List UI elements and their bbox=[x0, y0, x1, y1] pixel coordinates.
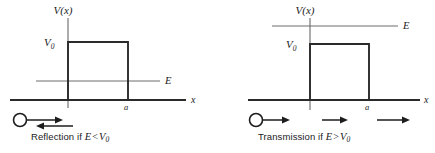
left-energy-label: E bbox=[164, 75, 172, 86]
left-caption-operator: < bbox=[91, 131, 99, 142]
left-reflected-arrow-icon bbox=[36, 123, 73, 130]
right-particle-icon bbox=[250, 114, 263, 127]
left-panel-caption: Reflection if E<V0 bbox=[31, 131, 109, 144]
right-caption-prefix: Transmission if bbox=[258, 131, 326, 142]
left-barrier-width-label: a bbox=[124, 102, 128, 112]
left-barrier bbox=[68, 42, 128, 100]
panel-left: V(x) V0 E x a bbox=[10, 4, 196, 129]
left-particle-icon bbox=[14, 114, 27, 127]
panel-right: V(x) V0 E x a bbox=[248, 4, 429, 127]
right-barrier bbox=[310, 44, 369, 100]
right-caption-potential-subscript: 0 bbox=[347, 135, 351, 144]
left-caption-potential-subscript: 0 bbox=[105, 135, 109, 144]
left-caption-prefix: Reflection if bbox=[31, 131, 85, 142]
right-vertical-axis-label: V(x) bbox=[296, 4, 315, 17]
left-x-axis-label: x bbox=[190, 94, 196, 105]
right-x-axis-label: x bbox=[423, 94, 429, 105]
right-transmitted-arrow-icon bbox=[377, 117, 410, 124]
left-vertical-axis-label: V(x) bbox=[54, 4, 73, 17]
right-barrier-height-label: V0 bbox=[286, 38, 297, 53]
right-barrier-arrow-icon bbox=[322, 117, 348, 124]
right-caption-operator: > bbox=[332, 131, 340, 142]
left-barrier-height-label: V0 bbox=[44, 36, 55, 51]
right-panel-caption: Transmission if E>V0 bbox=[258, 131, 350, 144]
right-barrier-width-label: a bbox=[365, 102, 369, 112]
right-energy-label: E bbox=[402, 20, 410, 31]
potential-barrier-figure: V(x) V0 E x a bbox=[0, 0, 435, 153]
left-incoming-arrow-icon bbox=[27, 117, 63, 124]
right-incoming-arrow-icon bbox=[263, 117, 290, 124]
